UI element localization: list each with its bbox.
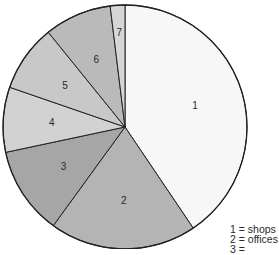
pie-slices [3, 5, 247, 249]
legend-item-3: 3 = [230, 244, 278, 254]
legend: 1 = shops 2 = offices 3 = [230, 224, 278, 254]
slice-label-7: 7 [116, 27, 122, 38]
slice-label-6: 6 [94, 54, 100, 65]
slice-label-5: 5 [62, 80, 68, 91]
slice-label-4: 4 [49, 117, 55, 128]
slice-label-2: 2 [121, 195, 127, 206]
slice-label-3: 3 [61, 161, 67, 172]
slice-label-1: 1 [192, 100, 198, 111]
